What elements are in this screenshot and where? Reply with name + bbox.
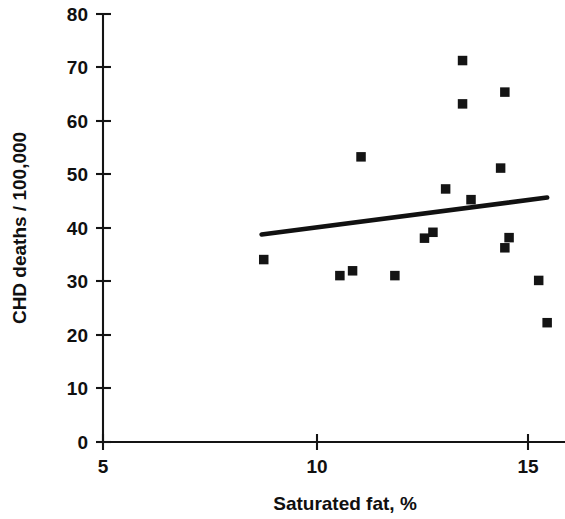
x-tick-label: 5 bbox=[98, 456, 109, 477]
data-points-group bbox=[259, 56, 552, 328]
data-point-marker bbox=[441, 184, 451, 194]
y-tick-label: 60 bbox=[67, 111, 88, 132]
chart-canvas: 80 70 60 50 40 30 20 10 0 5 10 15 Satura… bbox=[0, 0, 565, 519]
y-tick-label: 70 bbox=[67, 57, 88, 78]
x-axis-title: Saturated fat, % bbox=[273, 493, 417, 514]
y-tick-label: 0 bbox=[77, 432, 88, 453]
data-point-marker bbox=[348, 266, 358, 276]
data-point-marker bbox=[458, 99, 468, 109]
data-point-marker bbox=[534, 276, 544, 286]
data-point-marker bbox=[390, 271, 400, 281]
data-point-marker bbox=[356, 152, 366, 162]
x-tick-label: 10 bbox=[306, 456, 327, 477]
data-point-marker bbox=[428, 228, 438, 238]
y-axis-title: CHD deaths / 100,000 bbox=[9, 132, 30, 324]
data-point-marker bbox=[504, 233, 513, 243]
x-axis-tick-labels: 5 10 15 bbox=[98, 456, 539, 477]
data-point-marker bbox=[500, 87, 510, 97]
y-tick-label: 20 bbox=[67, 325, 88, 346]
data-point-marker bbox=[496, 163, 506, 173]
y-tick-label: 10 bbox=[67, 378, 88, 399]
data-point-marker bbox=[259, 255, 269, 265]
y-axis-tick-labels: 80 70 60 50 40 30 20 10 0 bbox=[67, 4, 88, 453]
y-tick-label: 50 bbox=[67, 164, 88, 185]
data-point-marker bbox=[335, 271, 345, 281]
data-point-marker bbox=[466, 195, 476, 205]
data-point-marker bbox=[542, 318, 552, 328]
data-point-marker bbox=[420, 233, 430, 243]
x-tick-label: 15 bbox=[517, 456, 539, 477]
scatter-plot-figure: 80 70 60 50 40 30 20 10 0 5 10 15 Satura… bbox=[0, 0, 565, 519]
y-tick-label: 40 bbox=[67, 218, 88, 239]
data-point-marker bbox=[500, 243, 510, 253]
y-tick-label: 80 bbox=[67, 4, 88, 25]
regression-trend-line bbox=[262, 198, 548, 235]
data-point-marker bbox=[458, 56, 468, 66]
y-tick-label: 30 bbox=[67, 271, 88, 292]
